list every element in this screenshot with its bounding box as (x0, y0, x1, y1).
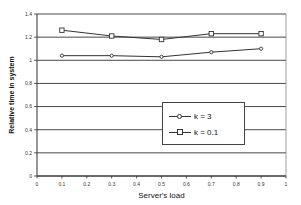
diamond-marker-icon (169, 111, 191, 121)
square-marker-icon (110, 34, 114, 38)
y-tick-label: 0.8 (25, 80, 32, 86)
x-tick-label: 0.9 (258, 181, 265, 187)
x-tick-label: 0.5 (158, 181, 165, 187)
x-tick-label: 0.1 (58, 181, 65, 187)
line-chart: 00.20.40.60.811.21.400.10.20.30.40.50.60… (0, 0, 301, 205)
diamond-marker-icon (160, 55, 163, 58)
square-marker-icon (159, 37, 163, 41)
diamond-marker-icon (260, 47, 263, 50)
y-tick-label: 0.6 (25, 103, 32, 109)
diamond-marker-icon (60, 54, 63, 57)
y-tick-label: 0 (29, 173, 32, 179)
square-marker-icon (169, 127, 191, 137)
square-marker-icon (60, 28, 64, 32)
x-tick-label: 0.7 (208, 181, 215, 187)
legend-label: k = 0.1 (194, 128, 218, 137)
legend-item-k01: k = 0.1 (169, 127, 218, 137)
y-tick-label: 1 (29, 57, 32, 63)
y-tick-label: 0.2 (25, 150, 32, 156)
diamond-marker-icon (210, 51, 213, 54)
x-axis-title: Server's load (138, 191, 184, 200)
x-tick-label: 0.3 (108, 181, 115, 187)
square-marker-icon (209, 31, 213, 35)
legend-item-k3: k = 3 (169, 111, 212, 121)
square-marker-icon (259, 31, 263, 35)
chart-legend: k = 3 k = 0.1 (162, 102, 245, 145)
x-tick-label: 0.4 (133, 181, 140, 187)
legend-label: k = 3 (194, 112, 212, 121)
x-tick-label: 0 (36, 181, 39, 187)
x-tick-label: 1 (285, 181, 288, 187)
x-tick-label: 0.8 (233, 181, 240, 187)
x-tick-label: 0.6 (183, 181, 190, 187)
diamond-marker-icon (110, 54, 113, 57)
y-tick-label: 1.4 (25, 11, 32, 17)
y-axis-title: Relative time in system (8, 56, 16, 133)
x-tick-label: 0.2 (83, 181, 90, 187)
y-tick-label: 1.2 (25, 34, 32, 40)
y-tick-label: 0.4 (25, 127, 32, 133)
